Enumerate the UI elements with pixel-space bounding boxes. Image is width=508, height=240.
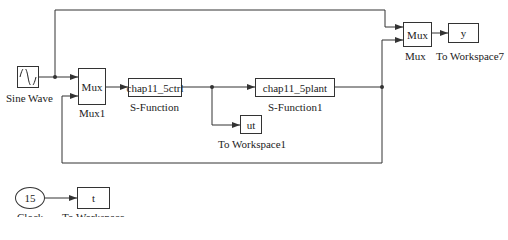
mux-block[interactable]: Mux xyxy=(403,22,432,47)
sfunction1-block[interactable]: chap11_5plant xyxy=(255,78,335,97)
to-workspace1-block[interactable]: ut xyxy=(240,115,262,134)
sine-wave-block[interactable] xyxy=(17,66,39,88)
mux1-block[interactable]: Mux xyxy=(78,68,106,105)
sfunction1-label: S-Function1 xyxy=(268,101,322,113)
clock-block[interactable]: 15 xyxy=(15,187,45,209)
sine-wave-icon xyxy=(19,69,37,85)
to-workspace-label: To Workspace xyxy=(62,211,125,217)
to-workspace7-label: To Workspace7 xyxy=(436,50,504,62)
mux-label: Mux xyxy=(405,50,426,62)
to-workspace1-label: To Workspace1 xyxy=(218,138,286,150)
sfunction-label: S-Function xyxy=(130,101,179,113)
sfunction-block[interactable]: chap11_5ctrl xyxy=(128,78,182,97)
sine-wave-label: Sine Wave xyxy=(6,92,53,104)
clock-label: Clock xyxy=(17,211,43,217)
to-workspace7-block[interactable]: y xyxy=(448,23,479,43)
to-workspace-block[interactable]: t xyxy=(77,187,110,209)
mux1-label: Mux1 xyxy=(79,107,105,119)
